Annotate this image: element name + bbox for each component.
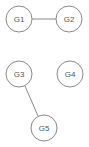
node-g5: G5 [31, 115, 57, 141]
graph-diagram: G1 G2 G3 G4 G5 [0, 0, 89, 147]
node-label: G3 [14, 70, 25, 79]
node-g2: G2 [56, 6, 82, 32]
node-label: G1 [14, 15, 25, 24]
node-label: G5 [39, 124, 50, 133]
edge-g3-g5 [25, 86, 38, 116]
node-g1: G1 [6, 6, 32, 32]
node-label: G4 [65, 70, 76, 79]
node-label: G2 [64, 15, 75, 24]
node-g3: G3 [6, 61, 32, 87]
node-g4: G4 [57, 61, 83, 87]
